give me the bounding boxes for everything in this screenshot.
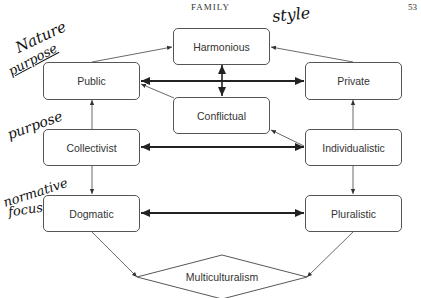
node-multiculturalism: Multiculturalism bbox=[167, 271, 277, 283]
node-label: Private bbox=[337, 75, 370, 87]
edge-public-harmonious bbox=[92, 47, 172, 62]
node-label: Harmonious bbox=[193, 41, 250, 53]
node-conflictual: Conflictual bbox=[173, 97, 270, 134]
node-label: Collectivist bbox=[66, 142, 116, 154]
node-dogmatic: Dogmatic bbox=[43, 195, 140, 232]
node-label: Individualistic bbox=[322, 142, 384, 154]
edge-pluralistic-multiculturalism bbox=[307, 232, 353, 277]
node-harmonious: Harmonious bbox=[173, 28, 270, 65]
node-public: Public bbox=[43, 62, 140, 100]
node-collectivist: Collectivist bbox=[43, 129, 140, 166]
annotation-style: style bbox=[271, 5, 311, 25]
edge-dogmatic-multiculturalism bbox=[92, 232, 137, 277]
node-label: Pluralistic bbox=[331, 208, 376, 220]
node-pluralistic: Pluralistic bbox=[305, 195, 402, 232]
edge-individualistic-conflictual bbox=[271, 130, 304, 146]
node-label: Public bbox=[77, 75, 106, 87]
node-private: Private bbox=[305, 62, 402, 100]
node-individualistic: Individualistic bbox=[305, 129, 402, 166]
edge-conflictual-public bbox=[141, 84, 174, 98]
node-label: Conflictual bbox=[197, 110, 246, 122]
edge-private-harmonious bbox=[271, 47, 353, 62]
node-label: Dogmatic bbox=[69, 208, 113, 220]
